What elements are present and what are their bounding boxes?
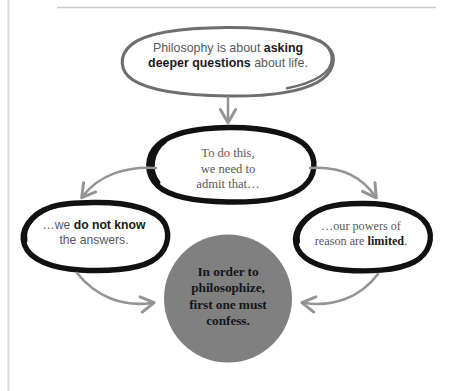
- left-line1-bold: do not know: [74, 218, 146, 232]
- admit-line3: admit that…: [196, 177, 259, 191]
- admit-line1: To do this,: [201, 146, 254, 160]
- premise-text: Philosophy is about asking deeper questi…: [130, 41, 326, 72]
- left-branch-text: …we do not know the answers.: [27, 218, 161, 248]
- arrow-right-to-conclusion: [304, 274, 378, 304]
- arrow-left-to-conclusion: [77, 273, 152, 304]
- arrow-admit-to-right: [310, 168, 375, 196]
- premise-line2-bold: deeper questions: [148, 56, 251, 70]
- right-line2-normal: reason are: [315, 234, 368, 248]
- right-branch-text: …our powers of reason are limited.: [294, 219, 428, 249]
- premise-line1-normal: Philosophy is about: [153, 41, 264, 55]
- premise-line2-normal: about life.: [251, 56, 308, 70]
- left-line2-normal: the answers.: [59, 233, 128, 247]
- diagram-canvas: Philosophy is about asking deeper questi…: [0, 0, 454, 391]
- admit-text: To do this, we need to admit that…: [172, 146, 284, 193]
- arrow-admit-to-left: [83, 168, 156, 196]
- admit-line2: we need to: [201, 162, 256, 176]
- right-line2-bold: limited: [368, 234, 405, 248]
- right-line1-normal: …our powers of: [321, 219, 401, 233]
- premise-line1-bold: asking: [264, 41, 303, 55]
- right-line2-tail: .: [404, 234, 407, 248]
- left-line1-normal: …we: [43, 218, 74, 232]
- conclusion-line2: philosophize,: [191, 280, 265, 295]
- conclusion-line1: In order to: [197, 264, 258, 279]
- conclusion-line4: confess.: [206, 313, 249, 328]
- conclusion-text: In order to philosophize, first one must…: [166, 264, 290, 329]
- conclusion-line3: first one must: [189, 297, 266, 312]
